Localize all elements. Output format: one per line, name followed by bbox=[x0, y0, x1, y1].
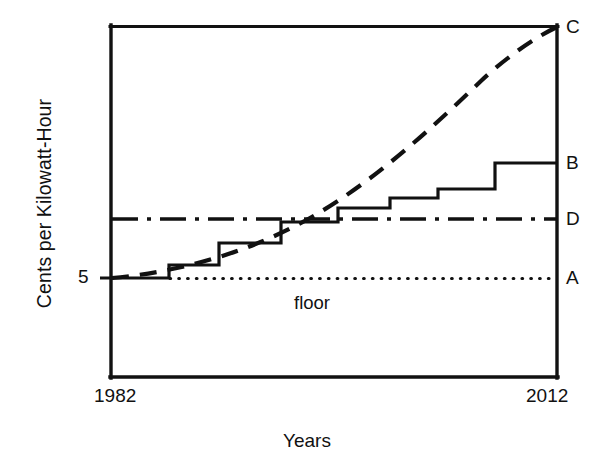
chart-plot-area bbox=[0, 0, 614, 463]
series-label-d: D bbox=[566, 208, 580, 230]
floor-annotation-label: floor bbox=[294, 292, 330, 314]
y-axis-title: Cents per Kilowatt-Hour bbox=[33, 74, 56, 334]
x-axis-title: Years bbox=[0, 430, 614, 452]
series-label-b: B bbox=[566, 152, 579, 174]
x-tick-label-end: 2012 bbox=[526, 385, 568, 407]
x-tick-label-start: 1982 bbox=[94, 385, 136, 407]
series-label-a: A bbox=[566, 267, 579, 289]
chart-figure: Cents per Kilowatt-Hour Years 5 1982 201… bbox=[0, 0, 614, 463]
series-c-escalation-curve bbox=[112, 27, 557, 278]
series-label-c: C bbox=[566, 16, 580, 38]
y-tick-label-5: 5 bbox=[78, 266, 89, 288]
